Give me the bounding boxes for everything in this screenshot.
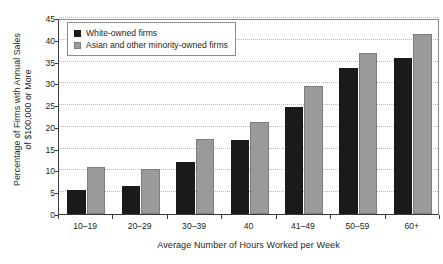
bar-chart-figure: Percentage of Firms with Annual Sales of…	[0, 0, 443, 264]
y-axis-title-line-1: Percentage of Firms with Annual Sales	[12, 7, 22, 212]
bar	[87, 167, 106, 214]
x-axis-ticks: 10–1920–2930–394041–4950–5960+	[58, 215, 439, 239]
legend-label: White-owned firms	[86, 29, 157, 38]
x-axis-tick-label: 60+	[404, 222, 419, 231]
x-axis-tick-label: 20–29	[128, 222, 152, 231]
bar	[304, 86, 323, 214]
x-axis-tick-mark	[221, 215, 222, 219]
bar	[359, 53, 378, 214]
x-axis-tick-label: 41–49	[291, 222, 315, 231]
bar	[141, 169, 160, 214]
bar-group	[231, 20, 269, 214]
legend-item: Asian and other minority-owned firms	[74, 39, 228, 51]
bar-group	[339, 20, 377, 214]
bar-group	[285, 20, 323, 214]
y-axis-tick-label: 5	[39, 189, 55, 198]
bar	[176, 162, 195, 214]
bar	[231, 140, 250, 214]
legend-swatch-icon	[74, 42, 81, 49]
y-axis-tick-label: 45	[39, 15, 55, 24]
bar	[250, 122, 269, 214]
legend-swatch-icon	[74, 30, 81, 37]
y-axis-tick-label: 30	[39, 80, 55, 89]
x-axis-tick-label: 50–59	[345, 222, 369, 231]
legend: White-owned firmsAsian and other minorit…	[67, 22, 236, 56]
x-axis-tick-mark	[112, 215, 113, 219]
x-axis-tick-mark	[276, 215, 277, 219]
x-axis-tick-mark	[385, 215, 386, 219]
y-axis-ticks: 051015202530354045	[36, 19, 55, 215]
gridline	[59, 17, 438, 18]
y-axis-title-line-2: of $100,000 or More	[23, 7, 33, 212]
y-axis-tick-label: 25	[39, 102, 55, 111]
bar-group	[394, 20, 432, 214]
x-axis-tick-label: 10–19	[73, 222, 97, 231]
bar	[122, 186, 141, 214]
bar	[339, 68, 358, 214]
bar	[196, 139, 215, 214]
bar	[394, 58, 413, 214]
y-axis-tick-label: 0	[39, 211, 55, 220]
x-axis-tick-mark	[330, 215, 331, 219]
y-axis-tick-label: 10	[39, 167, 55, 176]
bar	[67, 190, 86, 214]
legend-item: White-owned firms	[74, 27, 228, 39]
x-axis-tick-mark	[58, 215, 59, 219]
x-axis-title: Average Number of Hours Worked per Week	[58, 240, 439, 250]
bar	[285, 107, 304, 214]
x-axis-tick-mark	[167, 215, 168, 219]
y-axis-tick-label: 35	[39, 58, 55, 67]
bar	[413, 34, 432, 214]
y-axis-title: Percentage of Firms with Annual Sales of…	[0, 0, 36, 220]
x-axis-tick-mark	[439, 215, 440, 219]
legend-label: Asian and other minority-owned firms	[86, 41, 228, 50]
y-axis-tick-label: 20	[39, 124, 55, 133]
y-axis-tick-label: 40	[39, 36, 55, 45]
x-axis-tick-label: 30–39	[182, 222, 206, 231]
y-axis-tick-label: 15	[39, 145, 55, 154]
x-axis-tick-label: 40	[244, 222, 254, 231]
